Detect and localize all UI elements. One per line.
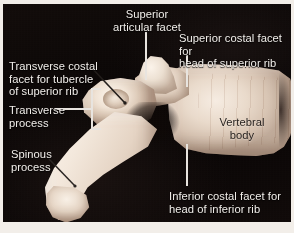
specimen-photograph: Superior articular facet Superior costal… bbox=[3, 4, 291, 222]
label-inferior-costal-facet: Inferior costal facet for head of inferi… bbox=[169, 190, 291, 215]
label-transverse-costal-facet: Transverse costal facet for tubercle of … bbox=[9, 60, 113, 98]
label-transverse-process: Transverse process bbox=[9, 104, 79, 129]
anatomy-figure: Superior articular facet Superior costal… bbox=[0, 0, 294, 233]
label-superior-costal-facet: Superior costal facet for head of superi… bbox=[179, 32, 291, 70]
label-superior-articular-facet: Superior articular facet bbox=[99, 8, 195, 33]
label-spinous-process: Spinous process bbox=[11, 148, 73, 173]
label-vertebral-body: Vertebral body bbox=[208, 116, 276, 141]
